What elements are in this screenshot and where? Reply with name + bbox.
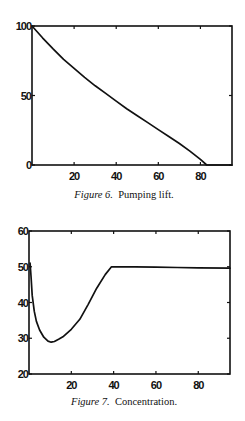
y-tick-label: 0 — [26, 159, 32, 171]
y-tick-label: 20 — [18, 368, 29, 380]
figure-caption: Figure 7. Concentration. — [70, 396, 177, 407]
y-tick-label: 60 — [18, 225, 29, 237]
plot-frame — [29, 231, 230, 374]
plot-frame — [32, 26, 232, 165]
figure-number: Figure 6. — [73, 189, 113, 200]
y-tick-label: 50 — [18, 261, 29, 273]
figure-page: 20406080050100Figure 6. Pumping lift. 20… — [0, 0, 245, 421]
figure-caption: Figure 6. Pumping lift. — [73, 189, 173, 200]
y-tick-label: 100 — [16, 20, 32, 32]
series-line-concentration — [30, 263, 230, 342]
x-tick-label: 80 — [195, 170, 206, 182]
x-tick-label: 40 — [109, 379, 120, 391]
chart-concentration: 204060802030405060Figure 7. Concentratio… — [18, 225, 230, 407]
chart-pumping-lift: 20406080050100Figure 6. Pumping lift. — [16, 20, 232, 200]
y-tick-label: 50 — [21, 90, 32, 102]
y-tick-label: 30 — [18, 332, 29, 344]
x-tick-label: 40 — [111, 170, 122, 182]
x-tick-label: 20 — [66, 379, 77, 391]
x-tick-label: 80 — [193, 379, 204, 391]
y-tick-label: 40 — [18, 297, 29, 309]
x-tick-label: 60 — [153, 170, 164, 182]
x-tick-label: 20 — [69, 170, 80, 182]
series-line-pumping-lift — [32, 26, 232, 165]
figure-number: Figure 7. — [70, 396, 110, 407]
figure-caption-text: Pumping lift. — [113, 189, 174, 200]
x-tick-label: 60 — [151, 379, 162, 391]
figure-caption-text: Concentration. — [110, 396, 177, 407]
